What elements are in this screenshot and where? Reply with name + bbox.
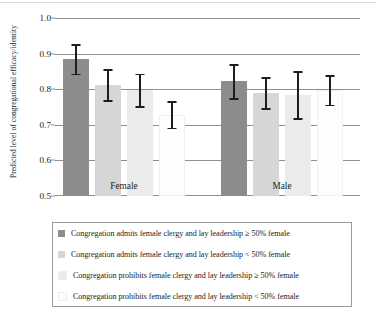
legend-label: Congregation prohibits female clergy and… [73, 271, 299, 280]
error-bar [171, 101, 173, 127]
legend-label: Congregation admits female clergy and la… [71, 250, 290, 259]
error-bar-cap-lower [230, 98, 239, 100]
legend-item[interactable]: Congregation prohibits female clergy and… [53, 286, 351, 307]
error-bar [139, 74, 141, 106]
y-tick-label: 1.0 [40, 13, 51, 23]
legend-swatch-icon [58, 292, 67, 301]
error-bar-cap-lower [136, 106, 145, 108]
y-tick-label: 0.8 [40, 84, 51, 94]
error-bar-cap-lower [262, 108, 271, 110]
error-bar-cap-upper [326, 75, 335, 77]
y-tick-label: 0.5 [40, 191, 51, 201]
y-tick-mark [51, 89, 55, 90]
y-tick-mark [51, 124, 55, 125]
error-bar-cap-upper [104, 69, 113, 71]
legend-item[interactable]: Congregation admits female clergy and la… [53, 223, 351, 244]
y-tick-label: 0.9 [40, 49, 51, 59]
error-bar-cap-upper [72, 44, 81, 46]
x-axis-group-label: Male [272, 181, 291, 191]
error-bar-cap-lower [104, 100, 113, 102]
y-gridline [55, 18, 360, 19]
error-bar-cap-lower [294, 118, 303, 120]
y-axis-title: Predicted level of congregational effica… [9, 7, 18, 197]
error-bar-cap-lower [168, 128, 177, 130]
legend-swatch-icon [58, 230, 65, 237]
y-tick-label: 0.6 [40, 155, 51, 165]
plot-area: 1.00.90.80.70.60.5 [55, 18, 360, 196]
error-bar [107, 69, 109, 100]
y-tick-label: 0.7 [40, 120, 51, 130]
bar [63, 59, 89, 196]
chart-figure: Predicted level of congregational effica… [0, 0, 376, 314]
error-bar [329, 75, 331, 105]
error-bar-cap-upper [294, 71, 303, 73]
legend-item[interactable]: Congregation admits female clergy and la… [53, 244, 351, 265]
y-tick-mark [51, 53, 55, 54]
y-tick-mark [51, 160, 55, 161]
error-bar-cap-upper [262, 77, 271, 79]
error-bar-cap-upper [168, 101, 177, 103]
error-bar-cap-upper [230, 64, 239, 66]
x-axis-group-label: Female [110, 181, 137, 191]
legend-label: Congregation prohibits female clergy and… [73, 292, 299, 301]
legend-swatch-icon [58, 271, 67, 280]
error-bar [75, 44, 77, 74]
error-bar [233, 64, 235, 98]
error-bar [297, 71, 299, 118]
legend-item[interactable]: Congregation prohibits female clergy and… [53, 265, 351, 286]
legend-label: Congregation admits female clergy and la… [71, 229, 290, 238]
top-divider-rule [0, 2, 376, 3]
y-tick-mark [51, 18, 55, 19]
error-bar [265, 77, 267, 108]
error-bar-cap-lower [72, 74, 81, 76]
y-gridline [55, 54, 360, 55]
chart-legend: Congregation admits female clergy and la… [52, 222, 352, 307]
error-bar-cap-lower [326, 105, 335, 107]
error-bar-cap-upper [136, 74, 145, 76]
legend-swatch-icon [58, 251, 65, 258]
